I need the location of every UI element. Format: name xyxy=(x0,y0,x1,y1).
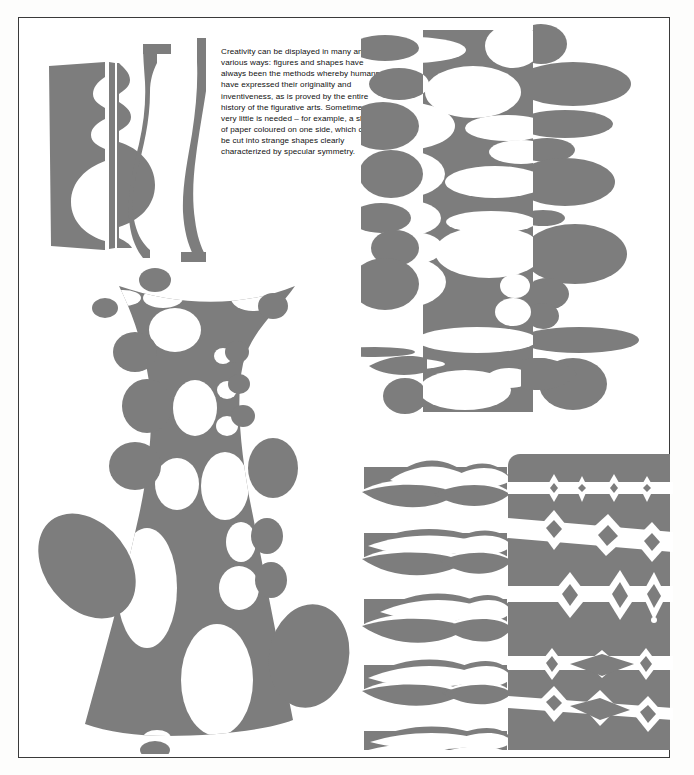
bottle-neck-left xyxy=(143,44,171,54)
lens-bars-figure xyxy=(362,450,512,750)
diamond-block-figure xyxy=(508,452,673,752)
plate-root: Creativity can be displayed in many and … xyxy=(0,0,694,775)
ellipse-band-figure xyxy=(361,22,661,422)
plate-frame: Creativity can be displayed in many and … xyxy=(18,17,670,758)
vase-negative-left xyxy=(49,62,105,250)
lens-bar xyxy=(362,727,512,751)
lens-bar xyxy=(362,594,512,643)
flared-vessel-figure xyxy=(27,268,372,754)
caption-text: Creativity can be displayed in many and … xyxy=(221,46,381,158)
lens-bar xyxy=(362,660,512,706)
bottle-base-right xyxy=(181,252,206,262)
lens-bar xyxy=(362,461,512,508)
lens-bar xyxy=(362,529,512,575)
vase-cutouts-figure xyxy=(31,22,206,272)
bottle-right-half xyxy=(183,38,206,258)
lens-bar-group xyxy=(362,461,512,751)
vase-sliver xyxy=(109,62,115,249)
band-outer-ellipses-right xyxy=(515,24,639,410)
